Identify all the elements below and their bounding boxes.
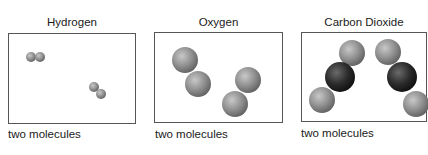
oxygen-atom xyxy=(403,91,428,117)
carbon-dioxide-molecule-1 xyxy=(309,40,365,113)
oxygen-atom xyxy=(375,39,401,65)
carbon-atom xyxy=(325,62,355,92)
oxygen-atom xyxy=(339,40,365,66)
carbon-dioxide-molecule-2 xyxy=(375,39,428,117)
panel-caption-carbon-dioxide: two molecules xyxy=(301,127,374,139)
oxygen-atom xyxy=(309,87,335,113)
carbon-atom xyxy=(387,62,417,92)
